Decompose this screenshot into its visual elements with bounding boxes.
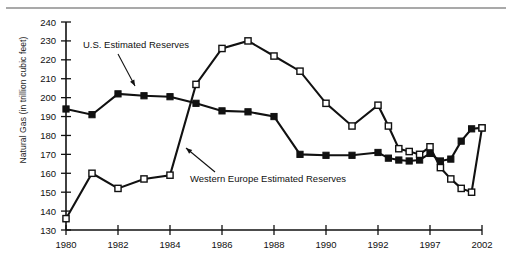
- data-point-open-square: [349, 123, 355, 129]
- data-point-open-square: [479, 125, 485, 131]
- x-tick-label: 2002: [471, 239, 492, 250]
- annotation-layer: U.S. Estimated ReservesWestern Europe Es…: [83, 39, 346, 184]
- us-series-arrow-head: [130, 80, 135, 86]
- y-tick-label: 210: [40, 73, 56, 84]
- x-tick-label: 1992: [367, 239, 388, 250]
- data-point-open-square: [406, 148, 412, 154]
- data-point-filled-square: [323, 152, 329, 158]
- data-point-open-square: [167, 172, 173, 178]
- y-tick-label: 200: [40, 92, 56, 103]
- data-point-open-square: [115, 185, 121, 191]
- data-point-filled-square: [141, 93, 147, 99]
- data-point-filled-square: [297, 151, 303, 157]
- data-point-filled-square: [349, 152, 355, 158]
- data-point-open-square: [437, 165, 443, 171]
- y-tick-label: 230: [40, 35, 56, 46]
- data-point-open-square: [469, 189, 475, 195]
- data-point-filled-square: [219, 108, 225, 114]
- data-point-filled-square: [167, 94, 173, 100]
- x-tick-label: 1990: [315, 239, 336, 250]
- x-tick-label: 1984: [159, 239, 180, 250]
- data-point-open-square: [417, 151, 423, 157]
- y-tick-label: 150: [40, 187, 56, 198]
- data-point-open-square: [448, 176, 454, 182]
- data-point-open-square: [63, 216, 69, 222]
- data-point-filled-square: [385, 155, 391, 161]
- data-point-open-square: [219, 45, 225, 51]
- us-series-label: U.S. Estimated Reserves: [83, 39, 189, 50]
- data-point-open-square: [375, 102, 381, 108]
- data-point-filled-square: [458, 138, 464, 144]
- data-point-open-square: [297, 68, 303, 74]
- y-tick-label: 220: [40, 54, 56, 65]
- data-point-open-square: [323, 100, 329, 106]
- data-point-filled-square: [89, 112, 95, 118]
- x-tick-label: 1980: [55, 239, 76, 250]
- data-point-open-square: [396, 146, 402, 152]
- data-point-open-square: [427, 144, 433, 150]
- data-point-filled-square: [245, 109, 251, 115]
- x-tick-label: 1986: [211, 239, 232, 250]
- data-point-filled-square: [469, 126, 475, 132]
- y-tick-label: 240: [40, 17, 56, 28]
- data-point-filled-square: [375, 149, 381, 155]
- y-tick-label: 160: [40, 168, 56, 179]
- data-point-filled-square: [115, 91, 121, 97]
- series-layer: [63, 38, 485, 222]
- data-point-open-square: [89, 170, 95, 176]
- data-point-filled-square: [271, 113, 277, 119]
- data-point-open-square: [245, 38, 251, 44]
- series-line: [66, 41, 482, 219]
- data-point-filled-square: [448, 156, 454, 162]
- data-point-open-square: [271, 53, 277, 59]
- x-axis-tick-group: 198019821984198619881990199219972002: [55, 225, 492, 250]
- y-tick-label: 130: [40, 225, 56, 236]
- data-point-open-square: [193, 81, 199, 87]
- chart-figure: Natural Gas (in trillion cubic feet) 240…: [0, 0, 514, 265]
- y-tick-label: 190: [40, 111, 56, 122]
- x-tick-label: 1988: [263, 239, 284, 250]
- series-western-europe-estimated-reserves: [63, 38, 485, 222]
- data-point-filled-square: [406, 158, 412, 164]
- x-tick-label: 1982: [107, 239, 128, 250]
- data-point-filled-square: [396, 157, 402, 163]
- y-tick-label: 180: [40, 130, 56, 141]
- y-tick-label: 140: [40, 206, 56, 217]
- data-point-open-square: [458, 185, 464, 191]
- data-point-open-square: [385, 123, 391, 129]
- data-point-filled-square: [63, 106, 69, 112]
- line-chart-plot: 240230220210200190180170160150140130 198…: [0, 0, 514, 265]
- data-point-open-square: [141, 176, 147, 182]
- data-point-filled-square: [193, 100, 199, 106]
- x-tick-label: 1997: [419, 239, 440, 250]
- y-tick-label: 170: [40, 149, 56, 160]
- western-europe-series-label: Western Europe Estimated Reserves: [190, 173, 346, 184]
